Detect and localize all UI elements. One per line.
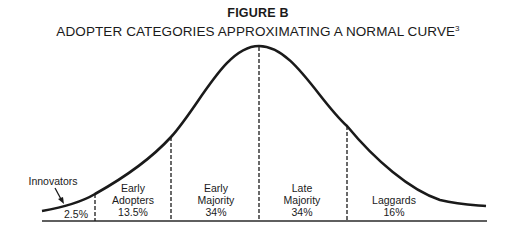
arrowhead-icon — [58, 197, 64, 204]
category-name: Innovators — [22, 175, 84, 187]
label-laggards: Laggards 16% — [362, 194, 426, 218]
category-name: Adopters — [100, 194, 166, 206]
category-name: Laggards — [362, 194, 426, 206]
category-name: Majority — [180, 194, 252, 206]
category-name: Late — [266, 182, 338, 194]
normal-curve-diagram — [0, 0, 516, 232]
percent-innovators: 2.5% — [58, 208, 94, 220]
label-late-majority: Late Majority 34% — [266, 182, 338, 218]
category-percent: 34% — [180, 206, 252, 218]
category-percent: 16% — [362, 206, 426, 218]
category-percent: 13.5% — [100, 206, 166, 218]
category-name: Early — [180, 182, 252, 194]
label-early-adopters: Early Adopters 13.5% — [100, 182, 166, 218]
category-name: Early — [100, 182, 166, 194]
category-percent: 34% — [266, 206, 338, 218]
label-innovators: Innovators — [22, 175, 84, 187]
category-name: Majority — [266, 194, 338, 206]
label-early-majority: Early Majority 34% — [180, 182, 252, 218]
